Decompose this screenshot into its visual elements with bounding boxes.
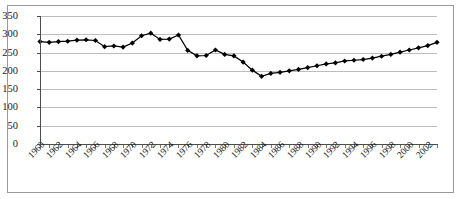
data-point-marker xyxy=(222,52,227,57)
data-point-marker xyxy=(74,38,79,43)
y-axis-tick-mark xyxy=(37,34,40,35)
data-point-marker xyxy=(333,60,338,65)
y-axis-tick-mark xyxy=(37,16,40,17)
x-axis-tick-mark xyxy=(437,145,438,148)
data-point-marker xyxy=(407,47,412,52)
data-point-marker xyxy=(388,52,393,57)
data-point-marker xyxy=(397,50,402,55)
data-point-marker xyxy=(120,44,125,49)
data-point-marker xyxy=(314,63,319,68)
y-axis-tick-mark xyxy=(37,107,40,108)
data-point-marker xyxy=(379,54,384,59)
data-point-marker xyxy=(213,47,218,52)
y-axis-tick-label: 200 xyxy=(2,66,18,76)
y-axis-tick-mark xyxy=(37,53,40,54)
y-axis-tick-label: 150 xyxy=(2,84,18,94)
data-point-marker xyxy=(194,53,199,58)
chart-figure: 050100150200250300350 196019621964196619… xyxy=(0,0,461,199)
y-axis-tick-label: 350 xyxy=(2,11,18,21)
data-point-marker xyxy=(370,55,375,60)
y-axis-line xyxy=(40,16,41,145)
y-axis-tick-label: 250 xyxy=(2,48,18,58)
data-point-marker xyxy=(65,39,70,44)
y-axis-tick-mark xyxy=(37,144,40,145)
y-axis-tick-label: 0 xyxy=(13,139,18,149)
data-point-marker xyxy=(361,57,366,62)
data-series xyxy=(40,16,437,144)
data-point-marker xyxy=(287,68,292,73)
data-point-marker xyxy=(305,65,310,70)
data-point-marker xyxy=(342,58,347,63)
data-point-marker xyxy=(425,43,430,48)
y-axis-tick-label: 300 xyxy=(2,29,18,39)
data-point-marker xyxy=(324,61,329,66)
data-point-marker xyxy=(416,45,421,50)
y-axis-tick-mark xyxy=(37,126,40,127)
y-axis-tick-mark xyxy=(37,89,40,90)
y-axis-tick-label: 50 xyxy=(8,121,19,131)
plot-area xyxy=(40,16,437,144)
data-point-marker xyxy=(277,70,282,75)
data-point-marker xyxy=(84,37,89,42)
y-axis-tick-mark xyxy=(37,71,40,72)
series-line xyxy=(40,33,437,76)
y-axis-tick-label: 100 xyxy=(2,102,18,112)
data-point-marker xyxy=(296,67,301,72)
data-point-marker xyxy=(268,71,273,76)
data-point-marker xyxy=(47,40,52,45)
data-point-marker xyxy=(56,39,61,44)
data-point-marker xyxy=(111,43,116,48)
data-point-marker xyxy=(204,53,209,58)
data-point-marker xyxy=(167,36,172,41)
data-point-marker xyxy=(351,58,356,63)
